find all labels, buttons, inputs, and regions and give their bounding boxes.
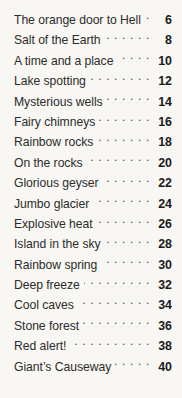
toc-entry-page-number: 22 <box>151 173 172 193</box>
toc-entry-page-number: 38 <box>151 336 172 356</box>
toc-dot-leader <box>99 112 150 126</box>
toc-entry-title: Salt of the Earth <box>14 30 104 50</box>
toc-entry[interactable]: Rainbow spring30 <box>14 255 172 275</box>
toc-entry[interactable]: Fairy chimneys16 <box>14 112 172 132</box>
toc-entry-page-number: 14 <box>151 92 172 112</box>
toc-dot-leader <box>70 336 150 350</box>
toc-entry-title: Giant’s Causeway <box>14 357 114 377</box>
toc-entry-title: Stone forest <box>14 316 82 336</box>
toc-dot-leader <box>97 132 150 146</box>
toc-dot-leader <box>87 153 151 167</box>
toc-entry[interactable]: Glorious geyser22 <box>14 173 172 193</box>
toc-entry-page-number: 30 <box>151 255 172 275</box>
toc-dot-leader <box>105 30 150 44</box>
toc-entry[interactable]: Red alert!38 <box>14 336 172 356</box>
toc-entry-title: Cool caves <box>14 295 77 315</box>
toc-entry-title: Glorious geyser <box>14 173 102 193</box>
toc-entry-title: Red alert! <box>14 336 69 356</box>
toc-dot-leader <box>107 92 150 106</box>
toc-entry[interactable]: A time and a place10 <box>14 51 172 71</box>
toc-entry[interactable]: Salt of the Earth8 <box>14 30 172 50</box>
toc-entry[interactable]: Giant’s Causeway40 <box>14 357 172 377</box>
toc-entry-page-number: 34 <box>151 295 172 315</box>
toc-entry-page-number: 12 <box>151 71 172 91</box>
toc-entry-page-number: 26 <box>151 214 172 234</box>
toc-entry[interactable]: Rainbow rocks18 <box>14 132 172 152</box>
toc-entry-page-number: 40 <box>151 357 172 377</box>
toc-dot-leader <box>101 255 150 269</box>
toc-entry-title: Lake spotting <box>14 71 89 91</box>
toc-entry-page-number: 8 <box>151 30 172 50</box>
toc-entry-page-number: 16 <box>151 112 172 132</box>
toc-entry-title: Rainbow spring <box>14 255 100 275</box>
toc-entry[interactable]: On the rocks20 <box>14 153 172 173</box>
toc-entry[interactable]: Stone forest36 <box>14 316 172 336</box>
toc-entry-page-number: 20 <box>151 153 172 173</box>
toc-entry[interactable]: Cool caves34 <box>14 295 172 315</box>
toc-entry-title: On the rocks <box>14 153 86 173</box>
toc-dot-leader <box>145 10 150 24</box>
toc-entry-title: Rainbow rocks <box>14 132 96 152</box>
toc-dot-leader <box>78 295 150 309</box>
toc-entry-page-number: 32 <box>151 275 172 295</box>
toc-entry[interactable]: The orange door to Hell6 <box>14 10 172 30</box>
toc-dot-leader <box>97 214 150 228</box>
toc-entry-title: Explosive heat <box>14 214 96 234</box>
toc-dot-leader <box>117 51 150 65</box>
toc-entry-title: Mysterious wells <box>14 92 106 112</box>
toc-entry-title: Fairy chimneys <box>14 112 98 132</box>
toc-entry-page-number: 28 <box>151 234 172 254</box>
toc-dot-leader <box>84 275 150 289</box>
toc-entry-page-number: 36 <box>151 316 172 336</box>
toc-entry-title: A time and a place <box>14 51 116 71</box>
table-of-contents: The orange door to Hell6Salt of the Eart… <box>0 0 182 398</box>
toc-entry[interactable]: Deep freeze32 <box>14 275 172 295</box>
toc-entry-title: Island in the sky <box>14 234 104 254</box>
toc-entry[interactable]: Explosive heat26 <box>14 214 172 234</box>
toc-entry-title: The orange door to Hell <box>14 10 144 30</box>
toc-entry[interactable]: Mysterious wells14 <box>14 92 172 112</box>
toc-dot-leader <box>115 357 150 371</box>
toc-entry[interactable]: Jumbo glacier24 <box>14 194 172 214</box>
toc-entry-page-number: 24 <box>151 194 172 214</box>
toc-entry[interactable]: Lake spotting12 <box>14 71 172 91</box>
toc-dot-leader <box>90 71 150 85</box>
toc-entry-title: Jumbo glacier <box>14 194 92 214</box>
toc-dot-leader <box>93 194 150 208</box>
toc-dot-leader <box>103 173 150 187</box>
toc-entry-page-number: 6 <box>151 10 172 30</box>
toc-entry[interactable]: Island in the sky28 <box>14 234 172 254</box>
toc-entry-page-number: 10 <box>151 51 172 71</box>
toc-entry-page-number: 18 <box>151 132 172 152</box>
toc-entry-title: Deep freeze <box>14 275 83 295</box>
toc-dot-leader <box>83 316 150 330</box>
toc-dot-leader <box>105 234 150 248</box>
